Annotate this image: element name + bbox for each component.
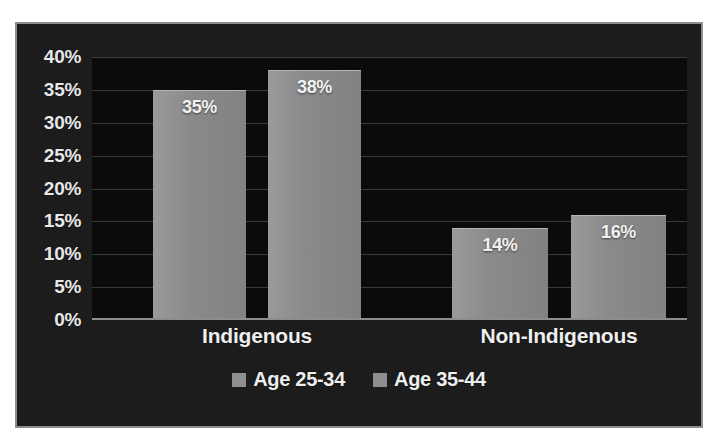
x-axis-baseline (92, 318, 687, 320)
x-axis: Indigenous Non-Indigenous (92, 324, 687, 358)
y-tick-label-20: 20% (44, 178, 81, 200)
legend-label: Age 25-34 (253, 368, 345, 391)
legend-label: Age 35-44 (394, 368, 486, 391)
y-tick-label-30: 30% (44, 112, 81, 134)
y-tick-label-15: 15% (44, 210, 81, 232)
legend-swatch-icon (373, 373, 387, 387)
legend: Age 25-34 Age 35-44 (17, 368, 701, 391)
legend-item-age-35-44[interactable]: Age 35-44 (373, 368, 486, 391)
y-tick-label-0: 0% (54, 309, 81, 331)
bar-indigenous-age-35-44[interactable]: 38% (268, 70, 361, 320)
bar-value-label: 16% (571, 222, 666, 243)
category-label-non-indigenous: Non-Indigenous (429, 324, 689, 348)
y-tick-label-35: 35% (44, 79, 81, 101)
bar-non-indigenous-age-25-34[interactable]: 14% (452, 228, 548, 320)
y-tick-label-40: 40% (44, 46, 81, 68)
y-tick-label-5: 5% (54, 276, 81, 298)
y-axis: 40% 35% 30% 25% 20% 15% 10% 5% 0% (17, 57, 85, 320)
category-label-indigenous: Indigenous (127, 324, 387, 348)
bar-indigenous-age-25-34[interactable]: 35% (153, 90, 246, 320)
bar-non-indigenous-age-35-44[interactable]: 16% (571, 215, 666, 320)
y-tick-label-10: 10% (44, 243, 81, 265)
gridline-40 (92, 57, 687, 58)
bar-value-label: 14% (452, 235, 548, 256)
bar-value-label: 35% (153, 97, 246, 118)
plot-area: 35% 38% 14% 16% (92, 57, 687, 320)
bar-chart: 40% 35% 30% 25% 20% 15% 10% 5% 0% 35% 38… (15, 22, 703, 428)
legend-item-age-25-34[interactable]: Age 25-34 (232, 368, 345, 391)
legend-swatch-icon (232, 373, 246, 387)
y-tick-label-25: 25% (44, 145, 81, 167)
bar-value-label: 38% (268, 77, 361, 98)
